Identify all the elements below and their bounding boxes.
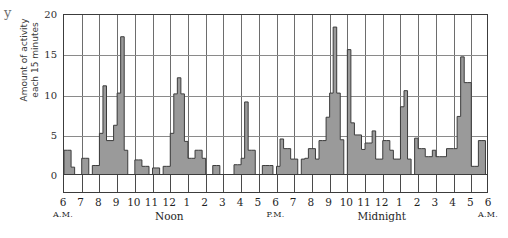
hour-label: 12 bbox=[163, 196, 176, 208]
x-axis-tick bbox=[153, 175, 154, 192]
activity-area-segment bbox=[64, 27, 344, 175]
hour-label: 9 bbox=[113, 196, 120, 208]
hour-label: 2 bbox=[201, 196, 208, 208]
x-axis-tick bbox=[471, 175, 472, 192]
hour-label: 6 bbox=[485, 196, 492, 208]
hour-label: 1 bbox=[396, 196, 403, 208]
hour-label: 3 bbox=[219, 196, 226, 208]
y-tick-label: 5 bbox=[51, 129, 57, 140]
x-axis-tick bbox=[259, 175, 260, 192]
hour-label: 1 bbox=[184, 196, 191, 208]
x-axis-tick bbox=[223, 175, 224, 192]
y-tick-label: 20 bbox=[44, 9, 57, 20]
hour-label: 6 bbox=[272, 196, 279, 208]
hour-label: 11 bbox=[145, 196, 158, 208]
hour-label: 6 bbox=[60, 196, 67, 208]
y-tick-label: 15 bbox=[44, 49, 57, 60]
x-axis-tick bbox=[241, 175, 242, 192]
plot-area bbox=[63, 14, 488, 175]
period-label: A.M. bbox=[478, 210, 498, 219]
x-axis-tick-band bbox=[63, 175, 488, 193]
x-axis-tick bbox=[170, 175, 171, 192]
x-axis-tick bbox=[436, 175, 437, 192]
period-label: Noon bbox=[155, 210, 184, 222]
y-tick-label: 10 bbox=[44, 89, 57, 100]
x-axis-tick bbox=[294, 175, 295, 192]
period-label: A.M. bbox=[53, 210, 73, 219]
hour-label: 3 bbox=[432, 196, 439, 208]
hour-label: 12 bbox=[375, 196, 388, 208]
hour-label: 7 bbox=[290, 196, 297, 208]
hour-label: 5 bbox=[254, 196, 261, 208]
x-axis-tick bbox=[312, 175, 313, 192]
hour-label: 7 bbox=[77, 196, 84, 208]
x-axis-period-labels: A.M.NoonP.M.MidnightA.M. bbox=[63, 210, 488, 224]
x-axis-tick bbox=[135, 175, 136, 192]
hour-label: 4 bbox=[237, 196, 244, 208]
x-axis-tick bbox=[418, 175, 419, 192]
x-axis-tick bbox=[347, 175, 348, 192]
hour-label: 8 bbox=[95, 196, 102, 208]
hour-label: 9 bbox=[325, 196, 332, 208]
period-label: P.M. bbox=[267, 210, 285, 219]
hour-label: 2 bbox=[414, 196, 421, 208]
y-tick-label: 0 bbox=[51, 170, 57, 181]
y-axis-tick-labels: 05101520 bbox=[0, 0, 63, 200]
hour-label: 11 bbox=[357, 196, 370, 208]
x-axis-tick bbox=[82, 175, 83, 192]
x-axis-tick bbox=[365, 175, 366, 192]
hour-label: 4 bbox=[449, 196, 456, 208]
hour-label: 8 bbox=[308, 196, 315, 208]
x-axis-hour-labels: 6789101112123456789101112123456 bbox=[63, 196, 488, 210]
activity-series bbox=[64, 15, 488, 175]
hour-label: 10 bbox=[127, 196, 140, 208]
x-axis-tick bbox=[206, 175, 207, 192]
x-axis-tick bbox=[117, 175, 118, 192]
x-axis-tick bbox=[383, 175, 384, 192]
x-axis-tick bbox=[454, 175, 455, 192]
period-label: Midnight bbox=[357, 210, 406, 222]
activity-histogram-figure: y Amount of activity each 15 minutes 051… bbox=[0, 0, 508, 238]
x-axis-tick bbox=[99, 175, 100, 192]
activity-area-segment bbox=[347, 50, 488, 175]
hour-label: 10 bbox=[340, 196, 353, 208]
x-axis-tick bbox=[188, 175, 189, 192]
x-axis-tick bbox=[400, 175, 401, 192]
x-axis-tick bbox=[330, 175, 331, 192]
x-axis-tick bbox=[277, 175, 278, 192]
hour-label: 5 bbox=[467, 196, 474, 208]
